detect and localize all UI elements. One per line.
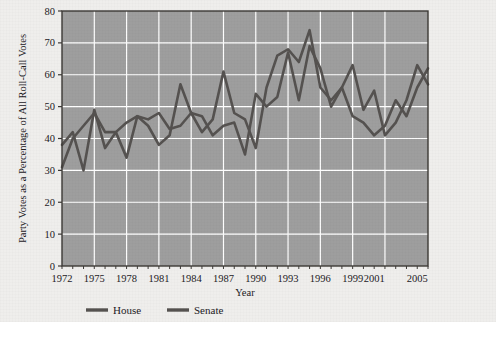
x-tick-label: 1984 [181, 273, 203, 284]
x-axis-title: Year [235, 287, 255, 298]
x-tick-label: 1987 [213, 273, 234, 284]
y-tick-label: 20 [45, 197, 56, 208]
y-tick-label: 80 [45, 6, 56, 17]
y-tick-label: 60 [45, 69, 56, 80]
line-chart: 0102030405060708019721975197819811984198… [0, 0, 496, 322]
x-tick-label: 1996 [310, 273, 331, 284]
y-axis-title: Party Votes as a Percentage of All Roll-… [17, 34, 28, 243]
y-tick-label: 40 [45, 133, 56, 144]
chart-figure: 0102030405060708019721975197819811984198… [0, 0, 496, 322]
y-tick-label: 0 [50, 261, 55, 272]
x-tick-label: 1981 [148, 273, 169, 284]
x-tick-label: 1990 [245, 273, 266, 284]
y-tick-label: 30 [45, 165, 56, 176]
legend-label-house: House [113, 304, 141, 316]
y-tick-label: 10 [45, 229, 56, 240]
x-tick-label: 1993 [278, 273, 299, 284]
x-tick-label: 1975 [84, 273, 105, 284]
x-tick-label: 1999 [342, 273, 363, 284]
x-tick-label: 2005 [407, 273, 428, 284]
legend-label-senate: Senate [194, 304, 223, 316]
y-tick-label: 50 [45, 101, 56, 112]
y-tick-label: 70 [45, 37, 56, 48]
x-tick-label: 1978 [116, 273, 137, 284]
x-tick-label: 1972 [52, 273, 73, 284]
x-tick-label: 2001 [364, 273, 385, 284]
